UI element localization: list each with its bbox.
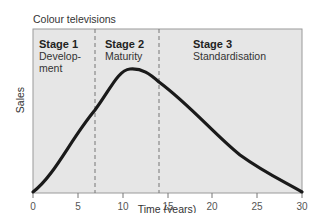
stage-2-heading: Stage 2 <box>105 38 144 50</box>
stage-1-desc-line1: Develop- <box>39 50 82 62</box>
x-tick-5: 5 <box>75 201 81 212</box>
stage-3-desc: Standardisation <box>193 50 266 62</box>
x-tick-0: 0 <box>30 201 36 212</box>
x-tick-10: 10 <box>117 201 129 212</box>
x-tick-30: 30 <box>296 201 308 212</box>
x-tick-25: 25 <box>251 201 263 212</box>
stage-1-desc-line2: ment <box>39 62 62 74</box>
x-tick-15: 15 <box>162 201 174 212</box>
stage-2-desc: Maturity <box>105 50 143 62</box>
stage-1-heading: Stage 1 <box>39 38 78 50</box>
chart-title: Colour televisions <box>33 13 116 25</box>
y-axis-label: Sales <box>14 87 26 113</box>
stage-3-heading: Stage 3 <box>193 38 232 50</box>
product-life-cycle-chart: Colour televisions Stage 1 Develop- ment… <box>0 0 317 213</box>
x-axis-ticks <box>33 193 302 198</box>
x-tick-20: 20 <box>206 201 218 212</box>
